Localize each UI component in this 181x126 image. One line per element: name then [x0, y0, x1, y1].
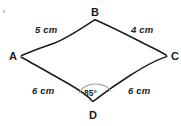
quadrilateral-drawing — [0, 0, 181, 126]
side-ab-line — [22, 20, 95, 56]
side-length-label-ab: 5 cm — [35, 25, 57, 35]
vertex-label-d: D — [89, 110, 97, 121]
geometry-figure: A B C D 5 cm 4 cm 6 cm 6 cm 85° — [0, 0, 181, 126]
side-length-label-bc: 4 cm — [131, 25, 153, 35]
side-length-label-dc: 6 cm — [128, 86, 150, 96]
vertex-label-a: A — [9, 51, 17, 62]
side-length-label-ad: 6 cm — [32, 86, 54, 96]
vertex-label-b: B — [91, 7, 99, 18]
vertex-label-c: C — [171, 51, 179, 62]
angle-measure-label-d: 85° — [84, 89, 97, 98]
